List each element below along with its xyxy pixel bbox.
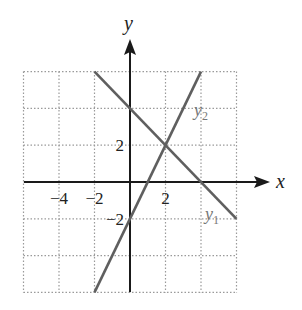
y-axis-label: y xyxy=(122,12,133,35)
x-tick-label: −4 xyxy=(50,189,69,208)
series-label-y1: y1 xyxy=(203,204,219,227)
y-tick-label: −2 xyxy=(106,210,124,229)
x-axis-label: x xyxy=(275,170,285,192)
series-labels: y2 y1 xyxy=(192,100,219,227)
x-tick-label: 2 xyxy=(161,189,170,208)
graph: x y −4−222−2 y2 y1 xyxy=(0,0,302,310)
series-label-y2: y2 xyxy=(192,100,208,123)
axes: x y xyxy=(24,12,285,292)
x-tick-label: −2 xyxy=(85,189,103,208)
y-tick-label: 2 xyxy=(116,136,125,155)
